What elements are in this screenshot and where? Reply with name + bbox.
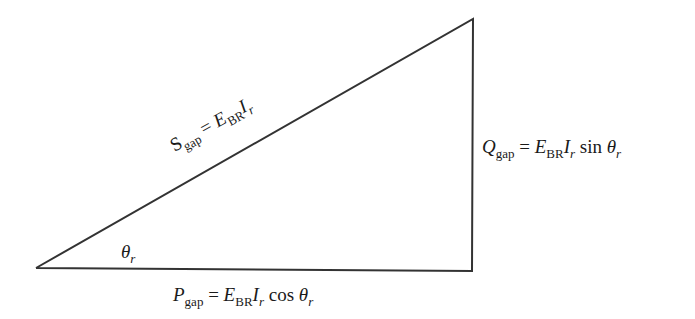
- angle-label: θr: [121, 242, 135, 265]
- theta-subscript: r: [130, 251, 135, 266]
- cos-function: cos: [269, 284, 294, 305]
- q-symbol: Q: [482, 136, 496, 157]
- theta-symbol: θ: [299, 284, 308, 305]
- p-subscript: gap: [185, 294, 204, 309]
- e-subscript: BR: [235, 294, 252, 309]
- e-symbol: E: [224, 284, 236, 305]
- sin-function: sin: [580, 136, 602, 157]
- theta-symbol: θ: [121, 241, 130, 262]
- i-subscript: r: [570, 146, 575, 161]
- q-subscript: gap: [496, 146, 515, 161]
- p-symbol: P: [173, 284, 185, 305]
- e-subscript: BR: [546, 146, 563, 161]
- real-power-label: Pgap = EBRIr cos θr: [173, 285, 313, 308]
- theta-subscript: r: [616, 146, 621, 161]
- reactive-power-label: Qgap = EBRIr sin θr: [482, 137, 621, 160]
- theta-symbol: θ: [607, 136, 616, 157]
- theta-subscript: r: [308, 294, 313, 309]
- equals-sign: =: [208, 284, 219, 305]
- i-subscript: r: [259, 294, 264, 309]
- e-symbol: E: [535, 136, 547, 157]
- triangle-outline: [36, 19, 473, 271]
- equals-sign: =: [519, 136, 530, 157]
